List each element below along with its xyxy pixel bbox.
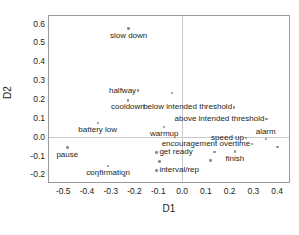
point-label: warmup — [150, 130, 178, 138]
data-point — [209, 159, 211, 161]
y-tick-label: -0.2 — [30, 169, 45, 179]
data-point — [66, 146, 68, 148]
data-point — [265, 138, 267, 140]
point-label: alarm — [256, 128, 276, 136]
x-tick-label: -0.5 — [56, 186, 71, 196]
point-label: battery low — [78, 126, 117, 134]
y-tick-label: 0.4 — [33, 56, 45, 66]
data-point — [163, 126, 165, 128]
point-label: below intended threshold — [143, 103, 232, 111]
data-point — [213, 151, 215, 153]
data-point — [90, 171, 92, 173]
data-point — [123, 175, 125, 177]
data-point — [127, 99, 129, 101]
point-label: above intended threshold — [175, 115, 265, 123]
point-label: halfway — [109, 87, 136, 95]
data-point — [171, 92, 173, 94]
x-tick-label: 0.1 — [200, 186, 212, 196]
y-tick-label: 0.3 — [33, 75, 45, 85]
x-tick-label: 0.2 — [224, 186, 236, 196]
point-label: interval/rep — [159, 166, 199, 174]
data-point — [127, 27, 129, 29]
y-tick-label: 0.2 — [33, 94, 45, 104]
point-label: get ready — [159, 148, 192, 156]
x-tick-label: 0.4 — [271, 186, 283, 196]
x-axis-title: D1 — [48, 203, 290, 214]
data-point — [107, 165, 109, 167]
x-tick-label: -0.3 — [103, 186, 118, 196]
data-point — [251, 143, 253, 145]
y-tick-label: 0.5 — [33, 37, 45, 47]
x-tick-label: -0.4 — [80, 186, 95, 196]
zero-line-vertical — [182, 16, 183, 182]
data-point — [276, 146, 278, 148]
data-point — [233, 106, 235, 108]
point-label: finish — [225, 155, 244, 163]
data-point — [137, 89, 139, 91]
point-label: pause — [56, 151, 78, 159]
y-tick-label: 0.6 — [33, 19, 45, 29]
point-label: cooldown — [111, 103, 145, 111]
x-tick-label: 0.0 — [176, 186, 188, 196]
data-point — [155, 151, 157, 153]
data-point — [97, 175, 99, 177]
y-tick-label: 0.1 — [33, 113, 45, 123]
data-point — [158, 160, 160, 162]
y-tick-label: -0.1 — [30, 151, 45, 161]
data-point — [97, 122, 99, 124]
y-axis-title: D2 — [2, 86, 13, 99]
data-point — [234, 150, 236, 152]
plot-area: 0.60.50.40.30.20.10.0-0.1-0.2 -0.5-0.4-0… — [48, 15, 290, 183]
scatter-chart: 0.60.50.40.30.20.10.0-0.1-0.2 -0.5-0.4-0… — [0, 0, 299, 235]
data-point — [265, 118, 267, 120]
point-label: slow down — [110, 32, 147, 40]
data-point — [155, 169, 157, 171]
x-tick-label: -0.1 — [151, 186, 166, 196]
y-tick-label: 0.0 — [33, 132, 45, 142]
x-tick-label: 0.3 — [247, 186, 259, 196]
x-tick-label: -0.2 — [127, 186, 142, 196]
